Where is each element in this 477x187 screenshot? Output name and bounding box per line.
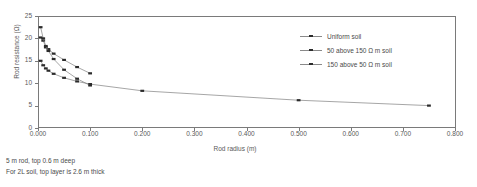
data-point-marker [88, 84, 92, 86]
data-point-marker [41, 64, 45, 66]
data-point-marker [75, 66, 79, 68]
data-point-marker [44, 45, 48, 47]
data-point-marker [427, 105, 431, 107]
legend-label: 50 above 150 Ω m soil [327, 47, 392, 54]
data-point-marker [75, 78, 79, 80]
data-point-marker [62, 59, 66, 61]
chart-footnotes: 5 m rod, top 0.6 m deepFor 2L soil, top … [6, 155, 104, 177]
data-point-marker [297, 99, 301, 101]
footnote-line: For 2L soil, top layer is 2.6 m thick [6, 166, 104, 177]
series-line [41, 27, 91, 85]
data-point-marker [39, 60, 43, 62]
legend-line-marker-icon [300, 32, 322, 40]
legend-label: Uniform soil [327, 33, 361, 40]
chart-legend: Uniform soil50 above 150 Ω m soil150 abo… [300, 29, 392, 71]
data-point-marker [41, 37, 45, 39]
data-point-marker [88, 72, 92, 74]
data-point-marker [140, 90, 144, 92]
data-point-marker [47, 50, 51, 52]
data-point-marker [47, 70, 51, 72]
chart-figure: Rod resistance (Ω) 0510152025 0.0000.100… [0, 0, 477, 187]
footnote-line: 5 m rod, top 0.6 m deep [6, 155, 104, 166]
legend-line-marker-icon [300, 46, 322, 54]
legend-item: Uniform soil [300, 29, 392, 43]
data-point-marker [44, 67, 48, 69]
legend-label: 150 above 50 Ω m soil [327, 61, 392, 68]
series-line [41, 38, 91, 74]
data-point-marker [52, 53, 56, 55]
data-point-marker [62, 69, 66, 71]
data-point-marker [52, 73, 56, 75]
legend-item: 150 above 50 Ω m soil [300, 57, 392, 71]
legend-item: 50 above 150 Ω m soil [300, 43, 392, 57]
legend-line-marker-icon [300, 60, 322, 68]
data-point-marker [75, 80, 79, 82]
data-point-marker [52, 58, 56, 60]
data-point-marker [39, 26, 43, 28]
data-point-marker [62, 77, 66, 79]
